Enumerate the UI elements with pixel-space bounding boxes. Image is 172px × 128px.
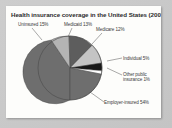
leader-line-employer xyxy=(90,92,104,102)
chart-card: Health insurance coverage in the United … xyxy=(6,6,161,118)
leader-line-medicare xyxy=(92,33,102,44)
pie-label-other-public-insurance: Other public insurance 1% xyxy=(123,72,157,83)
pie-label-individual: Individual 5% xyxy=(123,56,149,61)
pie-label-medicare: Medicare 12% xyxy=(96,27,124,32)
page-root: Health insurance coverage in the United … xyxy=(0,0,172,128)
pie-label-medicaid: Medicaid 13% xyxy=(64,22,92,27)
leader-line-uninsured xyxy=(32,28,42,40)
leader-line-otherpublic xyxy=(107,68,122,75)
leader-line-individual xyxy=(107,58,122,61)
pie-label-uninsured: Uninsured 15% xyxy=(18,22,48,27)
leader-line-medicaid xyxy=(68,28,72,37)
pie-slices xyxy=(23,36,102,104)
pie-label-employer-insured: Employer-insured 54% xyxy=(104,100,149,105)
